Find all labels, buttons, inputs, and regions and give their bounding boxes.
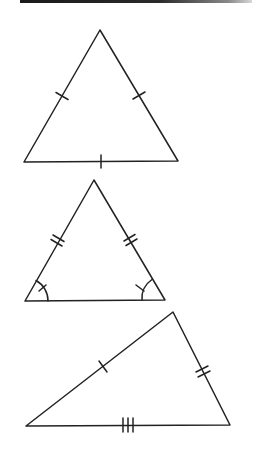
tick-mark-right: [133, 92, 145, 99]
tick-mark-left: [99, 361, 107, 372]
triangle-diagram: [0, 0, 258, 456]
isosceles-outline: [25, 180, 165, 301]
scalene-triangle: [26, 312, 230, 432]
tick-mark-left: [56, 93, 68, 100]
scalene-outline: [26, 312, 230, 426]
angle-tick-bottom-right: [136, 285, 144, 291]
isosceles-triangle: [25, 180, 165, 301]
angle-arc-bottom-left: [36, 281, 48, 302]
equilateral-outline: [24, 30, 178, 162]
equilateral-triangle: [24, 30, 178, 168]
